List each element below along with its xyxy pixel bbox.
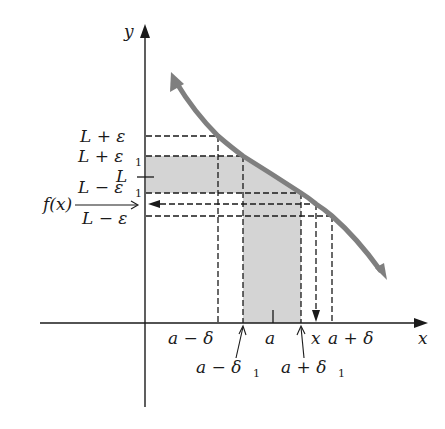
label-a-plus-delta1-subscript: 1 (338, 367, 345, 380)
y-axis-label: y (123, 21, 134, 41)
shaded-regions (146, 156, 301, 323)
label-a-minus-delta1-subscript: 1 (253, 367, 260, 380)
a-minus-delta1-pointer (236, 327, 243, 358)
label-L-minus-eps: L − ε (81, 208, 127, 228)
x-axis-label: x (418, 328, 428, 348)
vertical-band-delta1 (243, 193, 301, 323)
x-axis-arrow-icon (414, 318, 428, 328)
label-a: a (265, 328, 275, 348)
label-a-plus-delta1: a + δ (281, 357, 326, 377)
label-fx: f(x) (41, 194, 72, 214)
horizontal-band-eps1 (146, 156, 243, 193)
label-L-plus-eps1-subscript: 1 (135, 156, 142, 169)
y-axis-arrow-icon (140, 24, 150, 38)
epsilon-delta-diagram: y L + ε L + ε 1 L L − ε 1 f(x) L − ε a −… (0, 0, 445, 429)
label-L-minus-eps1: L − ε (77, 177, 123, 197)
fx-arrowhead-icon (148, 200, 160, 208)
label-a-minus-delta1: a − δ (196, 357, 241, 377)
label-a-minus-delta: a − δ (168, 328, 213, 348)
label-a-plus-delta: a + δ (328, 328, 373, 348)
x-arrowhead-icon (312, 310, 320, 322)
label-x: x (311, 328, 321, 348)
label-L-plus-eps1: L + ε (77, 146, 123, 166)
label-L-plus-eps: L + ε (79, 126, 125, 146)
label-L-minus-eps1-subscript: 1 (135, 187, 142, 200)
